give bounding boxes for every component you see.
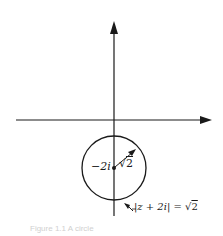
- equation-lhs: |z + 2i| =: [134, 201, 185, 212]
- equation-rhs-value: 2: [191, 201, 197, 212]
- vertical-axis: [110, 21, 118, 216]
- radius-label: √2: [119, 158, 133, 169]
- radius-value: 2: [126, 157, 133, 170]
- figure-caption: Figure 1.1 A circle: [30, 224, 94, 233]
- equation-label: |z + 2i| = √2: [134, 202, 198, 212]
- pointer-arrow-icon: [124, 203, 130, 209]
- center-label: −2i: [91, 161, 111, 172]
- arrow-right-icon: [200, 116, 212, 124]
- sqrt-symbol: √: [119, 157, 126, 170]
- arrow-up-icon: [110, 21, 118, 34]
